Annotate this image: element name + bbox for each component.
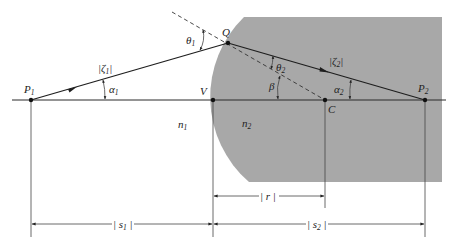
point-p2	[423, 98, 427, 102]
label-s1: | s1 |	[113, 218, 133, 232]
incident-ray	[31, 43, 228, 100]
point-p1	[29, 98, 33, 102]
label-c: C	[328, 103, 336, 115]
label-n1: n1	[178, 118, 187, 132]
point-v	[211, 98, 215, 102]
label-p1: P1	[23, 83, 34, 97]
refraction-diagram: P1 Q V C P2 n1 n2 θ1 θ2 α1 α2 β |ζ1| |ζ2…	[0, 0, 457, 250]
label-q: Q	[222, 26, 230, 38]
label-r: | r |	[260, 190, 276, 202]
angle-arc-theta1	[200, 30, 204, 50]
label-alpha1: α1	[109, 83, 119, 97]
label-theta1: θ1	[186, 34, 195, 48]
label-s2: | s2 |	[307, 218, 327, 232]
label-zeta1: |ζ1|	[98, 62, 112, 76]
angle-arc-alpha1	[103, 80, 105, 99]
label-beta: β	[268, 80, 275, 92]
label-zeta2: |ζ2|	[329, 55, 343, 69]
point-q	[226, 41, 230, 45]
point-c	[323, 98, 327, 102]
label-v: V	[200, 85, 208, 97]
